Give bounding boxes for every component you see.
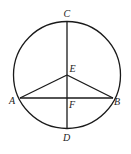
segment-AE: [20, 75, 67, 98]
label-E: E: [69, 63, 76, 74]
segment-EB: [67, 75, 113, 98]
label-B: B: [114, 96, 120, 107]
label-C: C: [64, 8, 71, 19]
label-D: D: [62, 132, 71, 143]
geometry-diagram: C E A F B D: [0, 0, 131, 154]
label-F: F: [68, 99, 76, 110]
label-A: A: [8, 95, 16, 106]
